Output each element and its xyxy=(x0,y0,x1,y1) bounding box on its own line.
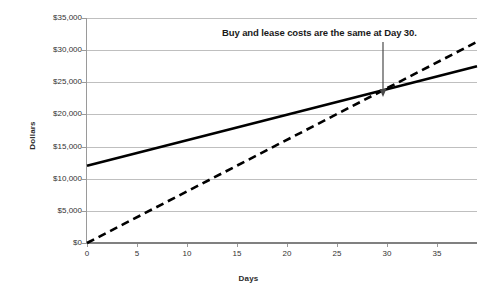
series-layer xyxy=(0,0,497,297)
annotation-label: Buy and lease costs are the same at Day … xyxy=(222,27,417,38)
series-line-buy xyxy=(87,66,477,166)
chart-container: Dollars $35,000 $30,000 $25,000 $20,000 … xyxy=(0,0,497,297)
series-line-lease xyxy=(87,42,477,243)
